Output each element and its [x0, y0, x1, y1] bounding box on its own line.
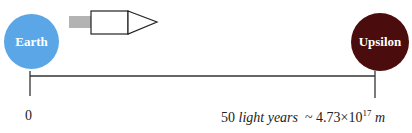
scale-start-label: 0 — [25, 108, 32, 124]
upsilon-label: Upsilon — [359, 34, 402, 50]
approx-symbol: ~ — [305, 110, 313, 125]
rocket-exhaust — [69, 16, 91, 28]
meters-base: 10 — [348, 110, 362, 125]
rocket-nose — [128, 11, 157, 34]
rocket-icon — [69, 11, 157, 34]
rocket-body — [91, 11, 128, 34]
earth-planet: Earth — [4, 14, 59, 69]
meters-mantissa: 4.73 — [316, 110, 341, 125]
meters-unit: m — [375, 110, 385, 125]
distance-scale — [30, 71, 375, 98]
meters-exponent: 17 — [362, 108, 371, 118]
distance-unit: light years — [239, 110, 299, 125]
scale-end-label: 50 light years ~ 4.73×1017 m — [221, 108, 385, 126]
upsilon-planet: Upsilon — [351, 13, 409, 71]
earth-label: Earth — [15, 34, 48, 50]
distance-value: 50 — [221, 110, 235, 125]
